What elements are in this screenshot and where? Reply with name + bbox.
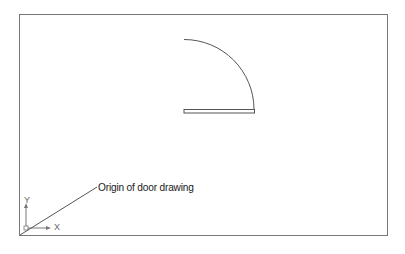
door-swing-arc — [184, 40, 254, 110]
y-axis-label: Y — [24, 195, 30, 205]
x-axis-label: X — [54, 222, 60, 232]
origin-callout-label: Origin of door drawing — [98, 181, 194, 193]
door-panel — [184, 110, 255, 114]
drawing-frame — [20, 15, 388, 236]
ucs-icon — [24, 203, 51, 230]
door-drawing-canvas — [0, 0, 405, 254]
